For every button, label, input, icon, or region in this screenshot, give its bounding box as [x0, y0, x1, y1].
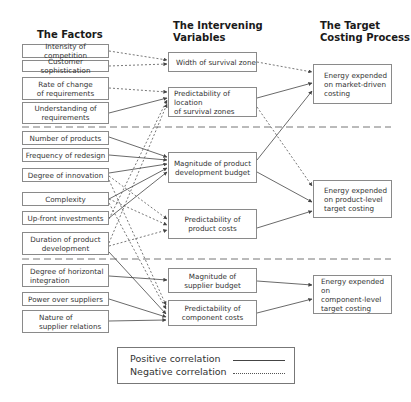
- variable-label-line1: Predictability of: [185, 304, 241, 313]
- variable-label-line2: supplier budget: [184, 281, 241, 290]
- factor-intensity-of-competition: Intensity of competition: [22, 44, 109, 58]
- factor-duration-of-product-development: Duration of product development: [22, 232, 109, 255]
- variable-label-line1: Magnitude of: [189, 272, 236, 281]
- legend-negative-label: Negative correlation: [130, 366, 227, 377]
- factor-label: Complexity: [45, 195, 86, 204]
- factor-label-line2: integration: [30, 276, 69, 285]
- factor-frequency-of-redesign: Frequency of redesign: [22, 148, 109, 162]
- variable-label-line2: of survival zones: [174, 107, 235, 116]
- factor-complexity: Complexity: [22, 192, 109, 206]
- factor-label-line1: Duration of product: [30, 235, 100, 244]
- factor-label: Power over suppliers: [28, 295, 103, 304]
- target-label-line3: target costing: [321, 304, 371, 313]
- target-label-line1: Energy expended: [324, 71, 387, 80]
- target-label-line1: Energy expended: [324, 186, 387, 195]
- variable-width-of-survival-zone: Width of survival zone: [168, 52, 257, 72]
- target-label-line1: Energy expended on: [321, 277, 391, 295]
- variable-label-line1: Predictability of location: [174, 89, 256, 107]
- factor-rate-of-change-of-requirements: Rate of change of requirements: [22, 77, 109, 100]
- legend: Positive correlation Negative correlatio…: [117, 347, 295, 384]
- variable-predictability-of-survival-zones: Predictability of location of survival z…: [168, 87, 257, 117]
- variable-label-line2: development budget: [175, 168, 250, 177]
- target-component-level-costing: Energy expended on component-level targe…: [313, 275, 392, 314]
- legend-positive: Positive correlation: [130, 353, 221, 365]
- factor-label-line1: Nature of: [39, 313, 73, 322]
- target-label-line3: target costing: [324, 204, 374, 213]
- target-market-driven-costing: Energy expended on market-driven costing: [313, 64, 392, 104]
- legend-dotted-line-sample: [233, 373, 285, 374]
- variable-magnitude-of-supplier-budget: Magnitude of supplier budget: [168, 268, 257, 293]
- factor-degree-of-innovation: Degree of innovation: [22, 168, 109, 182]
- variable-predictability-of-product-costs: Predictability of product costs: [168, 209, 257, 239]
- variable-label-line2: component costs: [182, 313, 244, 322]
- target-label-line2: component-level: [321, 295, 381, 304]
- factor-label-line2: supplier relations: [39, 322, 101, 331]
- factor-label: Frequency of redesign: [26, 151, 106, 160]
- factor-label-line2: of requirements: [37, 89, 94, 98]
- factor-label: Customer sophistication: [23, 57, 108, 75]
- target-label-line2: on product-level: [324, 195, 383, 204]
- factor-label-line2: requirements: [41, 113, 89, 122]
- variable-label: Width of survival zone: [176, 58, 256, 67]
- target-label-line2: on market-driven: [324, 80, 386, 89]
- variable-predictability-of-component-costs: Predictability of component costs: [168, 300, 257, 326]
- variable-label-line1: Predictability of: [185, 215, 241, 224]
- target-product-level-costing: Energy expended on product-level target …: [313, 180, 392, 218]
- target-label-line3: costing: [324, 89, 350, 98]
- variable-label-line2: product costs: [188, 224, 237, 233]
- factor-label: Degree of innovation: [28, 171, 104, 180]
- factor-power-over-suppliers: Power over suppliers: [22, 292, 109, 306]
- factor-up-front-investments: Up-front investments: [22, 211, 109, 225]
- variable-magnitude-of-product-development-budget: Magnitude of product development budget: [168, 152, 257, 183]
- legend-negative: Negative correlation: [130, 366, 227, 378]
- factor-understanding-of-requirements: Understanding of requirements: [22, 102, 109, 124]
- factor-label: Up-front investments: [27, 214, 103, 223]
- factor-label: Number of products: [30, 134, 102, 143]
- factor-label-line1: Degree of horizontal: [30, 267, 104, 276]
- legend-positive-label: Positive correlation: [130, 353, 221, 364]
- factor-label-line1: Rate of change: [38, 80, 92, 89]
- legend-solid-line-sample: [233, 360, 285, 361]
- factor-degree-of-horizontal-integration: Degree of horizontal integration: [22, 264, 109, 287]
- factor-customer-sophistication: Customer sophistication: [22, 60, 109, 72]
- factor-label-line2: development: [42, 244, 89, 253]
- factor-nature-of-supplier-relations: Nature of supplier relations: [22, 310, 109, 333]
- variable-label-line1: Magnitude of product: [174, 159, 251, 168]
- factor-label-line1: Understanding of: [34, 104, 96, 113]
- factor-number-of-products: Number of products: [22, 131, 109, 145]
